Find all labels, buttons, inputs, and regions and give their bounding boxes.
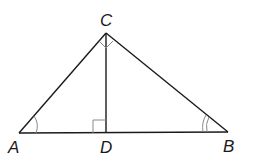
label-b: B: [223, 137, 234, 156]
right-angle-marker-d: [93, 120, 106, 133]
label-c: C: [100, 11, 113, 30]
triangle-diagram: C A D B: [0, 0, 257, 166]
segment-ab: [19, 132, 228, 133]
angle-arc-b-outer: [203, 115, 206, 132]
segment-bc: [106, 33, 228, 132]
angle-arc-b-inner: [206, 117, 209, 132]
label-d: D: [100, 138, 112, 157]
label-a: A: [7, 138, 19, 157]
segment-ac: [19, 33, 106, 133]
angle-arc-a: [34, 116, 37, 133]
